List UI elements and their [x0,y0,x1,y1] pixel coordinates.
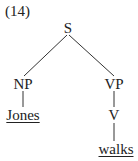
node-np: NP [13,77,32,92]
edge-s-np [24,35,67,76]
leaf-walks: walks [99,142,134,157]
leaf-jones: Jones [6,108,39,123]
node-v: V [109,108,120,123]
edge-s-vp [69,35,114,76]
node-vp: VP [104,77,123,92]
node-s: S [64,21,72,36]
